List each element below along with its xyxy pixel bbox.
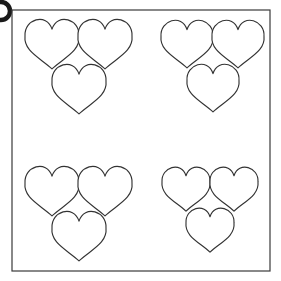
heart-groups-figure [0,0,281,281]
heart-group-top-right [161,20,264,112]
heart-shape-bottom-right-2 [210,167,258,211]
heart-shape-top-right-1 [161,20,213,68]
clipped-ring-icon [0,2,10,20]
clipped-ring-icon [0,2,10,20]
heart-shape-bottom-left-2 [78,166,132,215]
heart-shape-bottom-right-3 [186,208,234,252]
heart-shape-bottom-left-3 [52,211,106,260]
heart-shape-top-left-1 [25,19,79,68]
heart-shape-bottom-right-1 [162,167,210,211]
heart-shape-bottom-left-1 [25,166,79,215]
heart-group-bottom-right [162,167,258,252]
heart-groups-layer [25,19,264,260]
heart-shape-top-left-2 [78,19,132,68]
heart-shape-top-right-2 [212,20,264,68]
heart-shape-top-left-3 [52,64,106,113]
heart-group-top-left [25,19,132,113]
heart-shape-top-right-3 [187,64,239,112]
figure-canvas [0,0,281,281]
heart-group-bottom-left [25,166,132,260]
